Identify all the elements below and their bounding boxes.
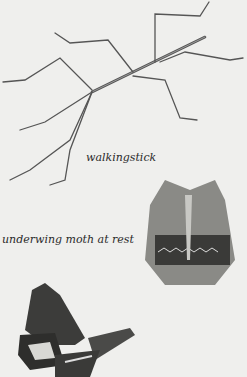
walkingstick-caption: walkingstick	[86, 151, 156, 164]
moth-at-rest-caption: underwing moth at rest	[2, 233, 134, 246]
moth-at-rest-illustration	[145, 180, 235, 285]
illustration-canvas	[0, 0, 247, 377]
moth-open-illustration	[18, 283, 135, 377]
